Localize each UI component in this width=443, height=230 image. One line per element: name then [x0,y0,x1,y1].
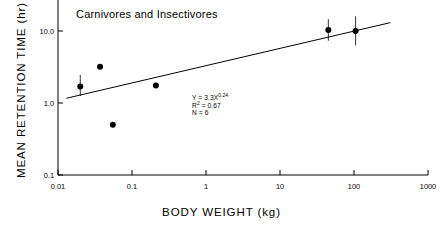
x-tick-label: 0.1 [112,182,152,191]
data-point [77,83,83,89]
chart-container: MEAN RETENTION TIME (hr) BODY WEIGHT (kg… [0,0,443,230]
y-tick-label: 1.0 [20,99,54,108]
x-tick-label: 10 [260,182,300,191]
data-point [325,27,331,33]
x-tick-label: 100 [334,182,374,191]
data-point [110,122,116,128]
plot-area [0,0,443,230]
y-tick-label: 10.0 [20,27,54,36]
data-point [97,64,103,70]
data-point [153,83,159,89]
x-tick-label: 1 [186,182,226,191]
y-tick-label: 0.1 [20,171,54,180]
x-tick-label: 1000 [408,182,443,191]
x-tick-label: 0.01 [38,182,78,191]
regression-line-group [66,23,390,99]
data-points-group [77,16,358,127]
data-point [353,28,359,34]
